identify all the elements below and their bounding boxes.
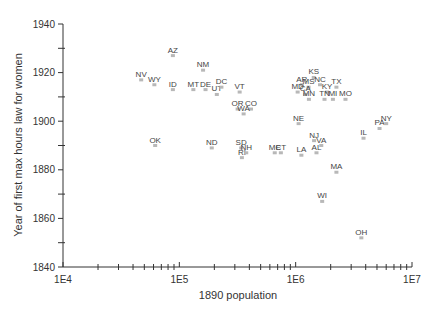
point-label: ND	[206, 138, 218, 147]
data-point-il: IL	[360, 128, 367, 140]
point-label: VT	[235, 82, 245, 91]
data-point-ne: NE	[293, 114, 304, 126]
data-point-mi: MI	[328, 89, 337, 101]
y-tick-label: 1840	[33, 262, 56, 273]
point-label: MA	[330, 162, 343, 171]
data-point-de: DE	[200, 80, 211, 92]
point-label: IL	[360, 128, 367, 137]
data-point-mn: MN	[303, 89, 316, 101]
point-label: DE	[200, 80, 211, 89]
scatter-chart: 1840186018801900192019401E41E51E61E7 NVW…	[0, 0, 435, 318]
data-point-ma: MA	[330, 162, 343, 174]
point-label: LA	[296, 145, 306, 154]
data-point-la: LA	[296, 145, 306, 157]
point-label: MT	[188, 80, 200, 89]
y-tick-label: 1880	[33, 164, 56, 175]
data-point-az: AZ	[168, 46, 178, 58]
y-tick-label: 1920	[33, 67, 56, 78]
point-label: MO	[339, 89, 352, 98]
data-point-nd: ND	[206, 138, 218, 150]
x-tick-label: 1E7	[403, 274, 421, 285]
x-tick-label: 1E4	[54, 274, 72, 285]
y-tick-label: 1860	[33, 213, 56, 224]
data-point-wa: WA	[237, 104, 250, 116]
point-label: OH	[355, 228, 367, 237]
point-label: MN	[303, 89, 316, 98]
x-tick-label: 1E5	[170, 274, 188, 285]
x-tick-label: 1E6	[287, 274, 305, 285]
point-label: NY	[381, 114, 393, 123]
data-point-ct: CT	[276, 143, 287, 155]
data-point-mo: MO	[339, 89, 352, 101]
data-point-mt: MT	[188, 80, 200, 92]
data-point-nm: NM	[197, 60, 210, 72]
axes: 1840186018801900192019401E41E51E61E7	[33, 19, 422, 286]
data-points: NVWYAZIDNMMTDEUTDCVTORCOWAOKNDSDRINHMECT…	[136, 46, 393, 240]
point-label: AL	[312, 143, 322, 152]
point-label: NV	[136, 70, 148, 79]
x-axis-title: 1890 population	[199, 289, 277, 301]
point-label: DC	[216, 77, 228, 86]
point-label: MI	[328, 89, 337, 98]
data-point-tx: TX	[331, 77, 342, 89]
point-label: WY	[148, 75, 162, 84]
data-point-al: AL	[312, 143, 322, 155]
data-point-wy: WY	[148, 75, 162, 87]
point-label: WA	[237, 104, 250, 113]
data-point-wi: WI	[317, 191, 327, 203]
data-point-id: ID	[169, 80, 177, 92]
data-point-ok: OK	[149, 136, 161, 148]
point-label: WI	[317, 191, 327, 200]
y-axis-title: Year of first max hours law for women	[12, 53, 24, 237]
data-point-nv: NV	[136, 70, 148, 82]
point-label: NM	[197, 60, 210, 69]
point-label: AZ	[168, 46, 178, 55]
point-label: NH	[240, 143, 252, 152]
point-label: CT	[276, 143, 287, 152]
data-point-oh: OH	[355, 228, 367, 240]
point-label: ID	[169, 80, 177, 89]
y-tick-label: 1940	[33, 19, 56, 30]
data-point-vt: VT	[235, 82, 245, 94]
point-label: TX	[331, 77, 342, 86]
point-label: NE	[293, 114, 304, 123]
point-label: OK	[149, 136, 161, 145]
y-tick-label: 1900	[33, 116, 56, 127]
